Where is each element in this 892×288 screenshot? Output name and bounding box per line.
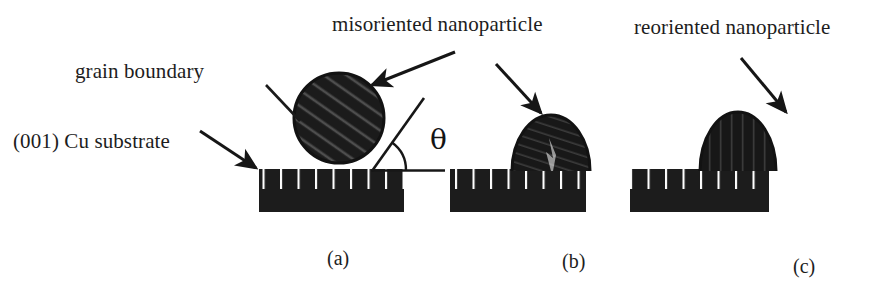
substrate-grain-band-b (450, 169, 586, 189)
reoriented-particle-c (700, 112, 776, 171)
panel-c-particle-arrow (741, 58, 786, 112)
misoriented-nanoparticle-arrow (372, 52, 455, 85)
panel-c-artwork (630, 58, 786, 212)
label-grain-boundary: grain boundary (75, 61, 204, 82)
label-misoriented-nanoparticle: misoriented nanoparticle (332, 14, 543, 35)
panel-caption-a: (a) (327, 248, 349, 268)
label-cu-substrate: (001) Cu substrate (13, 131, 170, 152)
panel-a-artwork (200, 52, 455, 212)
label-reoriented-nanoparticle: reoriented nanoparticle (634, 17, 830, 38)
panel-b-particle-arrow (496, 64, 541, 113)
panel-b-artwork (450, 64, 590, 212)
figure-container: grain boundary (001) Cu substrate misori… (0, 0, 892, 288)
substrate-grain-band-a (259, 169, 404, 189)
substrate-grain-band-c (630, 169, 769, 189)
theta-arc-a (392, 143, 406, 171)
panel-caption-b: (b) (562, 251, 585, 271)
cu-substrate-arrow (200, 131, 256, 168)
grain-boundary-leader-line (266, 85, 300, 121)
theta-angle-symbol: θ (430, 126, 447, 154)
panel-caption-c: (c) (793, 256, 815, 276)
